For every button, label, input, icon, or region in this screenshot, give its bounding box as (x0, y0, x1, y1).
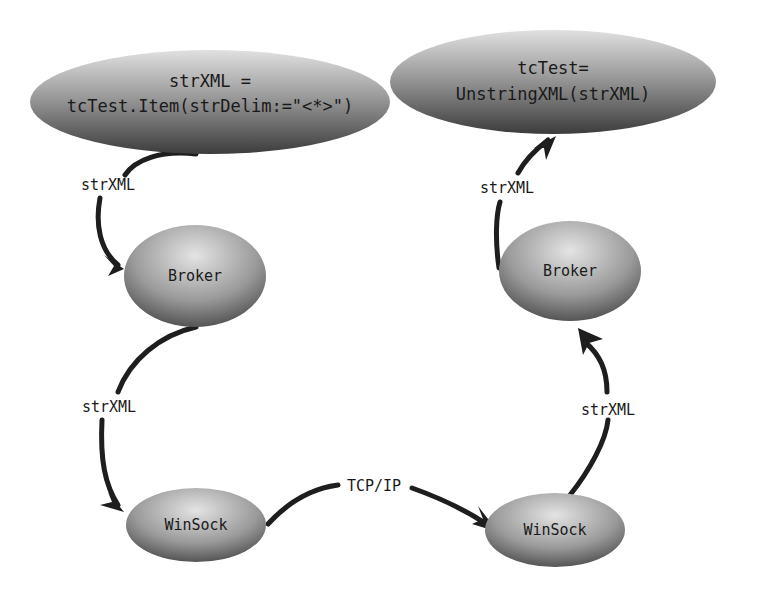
edge-broker-to-winsock-left (100, 327, 196, 512)
node-broker-left-label: Broker (168, 267, 222, 285)
edge-label-broker-to-target: strXML (480, 179, 534, 197)
flow-diagram: strXML = tcTest.Item(strDelim:="<*>") tc… (0, 0, 768, 594)
node-broker-left: Broker (124, 225, 266, 327)
node-winsock-right-label: WinSock (523, 521, 586, 539)
node-source-line2: tcTest.Item(strDelim:="<*>") (67, 96, 354, 116)
node-target: tcTest= UnstringXML(strXML) (390, 30, 716, 134)
node-winsock-left: WinSock (126, 488, 266, 562)
edge-label-broker-to-winsock-left: strXML (82, 398, 136, 416)
node-winsock-right: WinSock (485, 493, 625, 567)
node-source: strXML = tcTest.Item(strDelim:="<*>") (30, 50, 390, 154)
edge-label-winsock-to-broker-right: strXML (581, 401, 635, 419)
node-target-line1: tcTest= (517, 58, 589, 78)
edge-label-source-to-broker: strXML (81, 176, 135, 194)
node-target-line2: UnstringXML(strXML) (456, 84, 650, 104)
edge-label-tcpip: TCP/IP (347, 477, 401, 495)
node-broker-right-label: Broker (543, 262, 597, 280)
node-winsock-left-label: WinSock (164, 516, 227, 534)
node-broker-right: Broker (499, 221, 641, 321)
node-source-line1: strXML = (169, 71, 251, 91)
